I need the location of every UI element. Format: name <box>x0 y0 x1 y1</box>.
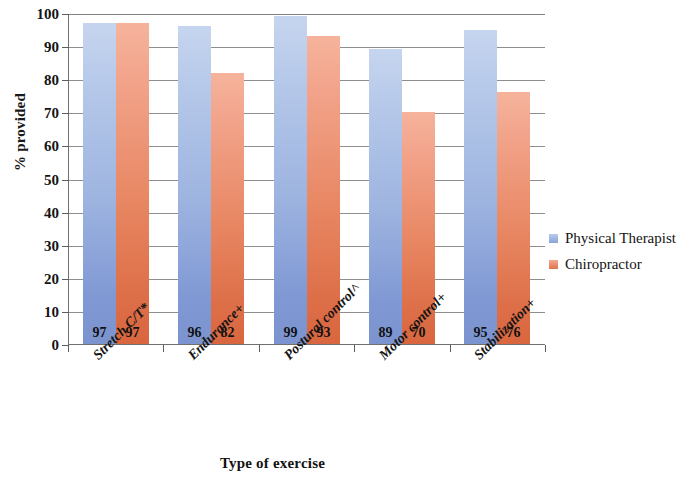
y-axis-tick-label: 10 <box>44 303 59 320</box>
chart-page: % provided 0102030405060708090100 979796… <box>0 0 687 485</box>
y-axis-tick-label: 30 <box>44 237 59 254</box>
legend-item-label: Physical Therapist <box>565 230 676 247</box>
y-axis-tick <box>62 47 69 48</box>
bar: 95 <box>464 30 497 344</box>
bar: 97 <box>116 23 149 344</box>
y-axis-title: % provided <box>12 72 36 192</box>
legend-item-label: Chiropractor <box>565 256 642 273</box>
x-axis-tick <box>545 345 546 352</box>
x-axis-tick <box>450 345 451 352</box>
x-axis-tick <box>259 345 260 352</box>
y-axis-tick-label: 90 <box>44 39 59 56</box>
y-axis-tick-label: 50 <box>44 171 59 188</box>
y-axis-tick <box>62 146 69 147</box>
bar: 97 <box>83 23 116 344</box>
legend-item[interactable]: Physical Therapist <box>549 225 687 251</box>
bar: 89 <box>369 49 402 344</box>
y-axis-tick-label: 40 <box>44 204 59 221</box>
y-axis-tick <box>62 14 69 15</box>
legend-swatch-icon <box>549 260 558 269</box>
y-axis-tick <box>62 213 69 214</box>
y-axis-tick <box>62 279 69 280</box>
x-axis-tick <box>163 345 164 352</box>
x-axis-tick <box>68 345 69 352</box>
y-axis-tick <box>62 246 69 247</box>
y-axis-tick-label: 100 <box>37 6 60 23</box>
bar: 96 <box>178 26 211 344</box>
legend-item[interactable]: Chiropractor <box>549 251 687 277</box>
bar: 99 <box>274 16 307 344</box>
plot-area: 0102030405060708090100 97979682999389709… <box>68 14 545 345</box>
y-axis-tick-label: 70 <box>44 105 59 122</box>
x-axis-tick <box>354 345 355 352</box>
x-axis-title: Type of exercise <box>0 455 545 472</box>
y-axis-tick-label: 20 <box>44 270 59 287</box>
gridline <box>68 14 545 15</box>
y-axis-tick-label: 60 <box>44 138 59 155</box>
y-axis-tick <box>62 312 69 313</box>
y-axis-tick <box>62 180 69 181</box>
chart-legend: Physical Therapist Chiropractor <box>549 225 687 277</box>
y-axis-tick-label: 0 <box>52 337 60 354</box>
y-axis-tick-label: 80 <box>44 72 59 89</box>
y-axis-tick <box>62 113 69 114</box>
legend-swatch-icon <box>549 234 558 243</box>
y-axis-tick <box>62 80 69 81</box>
